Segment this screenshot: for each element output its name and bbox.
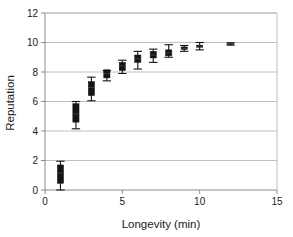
box [57, 165, 63, 183]
data-marker [226, 43, 234, 45]
x-axis-label: Longevity (min) [122, 218, 201, 230]
reputation-longevity-chart: 051015 024681012 Longevity (min) Reputat… [0, 0, 293, 237]
y-axis-label: Reputation [4, 75, 16, 131]
y-tick-label-10: 10 [27, 37, 39, 48]
chart-container: 051015 024681012 Longevity (min) Reputat… [0, 0, 293, 237]
x-tick-label-15: 15 [271, 196, 283, 207]
x-tick-label-0: 0 [42, 196, 48, 207]
x-tick-label-5: 5 [120, 196, 126, 207]
y-tick-label-4: 4 [32, 126, 38, 137]
y-tick-label-12: 12 [27, 8, 39, 19]
y-tick-label-0: 0 [32, 185, 38, 196]
box [73, 104, 79, 122]
box [104, 70, 110, 78]
box [88, 82, 94, 96]
y-tick-label-2: 2 [32, 155, 38, 166]
y-tick-label-8: 8 [32, 67, 38, 78]
y-tick-label-6: 6 [32, 96, 38, 107]
box [150, 51, 156, 58]
box [119, 62, 125, 70]
x-tick-label-10: 10 [194, 196, 206, 207]
